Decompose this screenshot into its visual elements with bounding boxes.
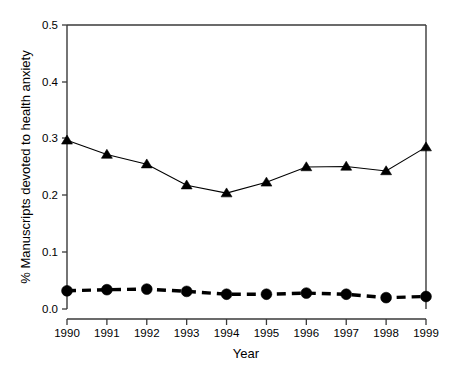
data-point-circle [101,284,112,295]
data-point-circle [221,289,232,300]
data-point-circle [421,291,432,302]
x-tick-label: 1997 [333,327,359,339]
data-point-triangle [421,142,432,151]
data-point-circle [381,292,392,303]
data-point-circle [181,286,192,297]
x-tick-label: 1993 [174,327,200,339]
y-tick-label: 0.2 [42,189,58,201]
chart-figure: 0.0 0.1 0.2 0.3 0.4 0.5 1990199119921993… [0,0,459,376]
data-point-circle [301,288,312,299]
x-axis-title: Year [233,346,260,361]
y-axis-title: % Manuscripts devoted to health anxiety [18,50,33,284]
x-tick-label: 1995 [254,327,280,339]
y-tick-label: 0.4 [42,76,59,88]
x-tick-label: 1991 [94,327,120,339]
data-point-triangle [181,180,192,189]
data-point-triangle [62,135,73,144]
data-point-circle [261,289,272,300]
x-tick-label: 1992 [134,327,160,339]
x-tick-label: 1990 [54,327,80,339]
series-circle-series [62,284,432,303]
series-triangle-series [62,135,432,197]
x-tick-label: 1996 [294,327,320,339]
x-axis-tick-labels: 1990199119921993199419951996199719981999 [54,327,439,339]
x-tick-label: 1994 [214,327,240,339]
x-axis-ticks [67,319,426,325]
data-point-triangle [101,149,112,158]
data-point-triangle [341,161,352,170]
data-series-layer [62,135,432,303]
x-tick-label: 1998 [373,327,399,339]
series-line-circle-series [67,289,426,298]
x-tick-label: 1999 [413,327,439,339]
y-tick-label: 0.0 [42,303,58,315]
data-point-circle [141,284,152,295]
series-line-triangle-series [67,140,426,193]
y-axis-tick-labels: 0.0 0.1 0.2 0.3 0.4 0.5 [42,19,59,315]
data-point-circle [62,285,73,296]
data-point-circle [341,289,352,300]
y-tick-label: 0.5 [42,19,58,31]
data-point-triangle [301,162,312,171]
y-tick-label: 0.3 [42,132,58,144]
y-tick-label: 0.1 [42,246,58,258]
data-point-triangle [261,177,272,186]
y-axis-ticks [62,25,67,309]
line-chart: 0.0 0.1 0.2 0.3 0.4 0.5 1990199119921993… [0,0,459,376]
